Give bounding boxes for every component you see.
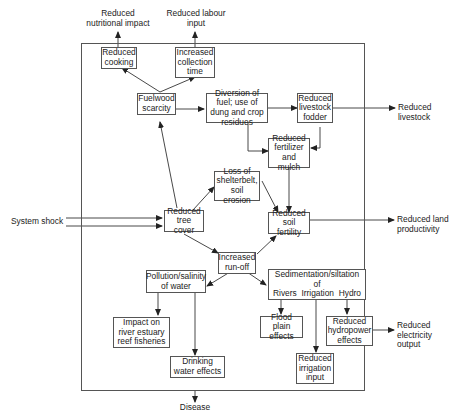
label-reduced-livestock: Reduced livestock (398, 103, 443, 122)
label-reduced-nutritional-impact: Reduced nutritional impact (83, 9, 153, 28)
node-increased-runoff: Increased run-off (218, 252, 256, 274)
node-reduced-hydropower: Reduced hydropower effects (326, 316, 373, 346)
node-increased-collection-time: Increased collection time (175, 47, 215, 78)
node-impact-fisheries: Impact on river estuary reef fisheries (113, 317, 170, 348)
sedimentation-targets: Rivers Irrigation Hydro (271, 289, 363, 299)
node-reduced-soil-fertility: Reduced soil fertility (268, 212, 310, 234)
sed-hydro: Hydro (339, 289, 361, 299)
node-diversion-of-fuel: Diversion of fuel; use of dung and crop … (206, 93, 268, 123)
sed-irrigation: Irrigation (301, 289, 334, 299)
label-disease: Disease (170, 403, 220, 413)
node-sedimentation: Sedimentation/siltation of Rivers Irriga… (268, 269, 366, 300)
label-reduced-land-productivity: Reduced land productivity (397, 215, 457, 234)
node-reduced-livestock-fodder: Reduced livestock fodder (297, 93, 333, 123)
node-reduced-irrigation-input: Reduced irrigation input (296, 353, 334, 384)
node-drinking-water-effects: Drinking water effects (170, 356, 225, 378)
label-reduced-electricity-output: Reduced electricity output (397, 321, 445, 350)
node-reduced-fertilizer-mulch: Reduced fertilizer and mulch (268, 138, 310, 168)
node-pollution-salinity: Pollution/salinity of water (146, 270, 206, 293)
node-reduced-tree-cover: Reduced tree cover (164, 210, 204, 232)
sedimentation-title: Sedimentation/siltation of (271, 270, 363, 289)
node-fuelwood-scarcity: Fuelwood scarcity (137, 93, 176, 115)
node-reduced-cooking: Reduced cooking (101, 47, 137, 69)
label-system-shock: System shock (11, 217, 71, 227)
node-flood-plain-effects: Flood plain effects (260, 316, 303, 338)
node-loss-of-shelterbelt: Loss of shelterbelt, soil erosion (214, 171, 260, 201)
sed-rivers: Rivers (273, 289, 297, 299)
label-reduced-labour-input: Reduced labour input (166, 9, 226, 28)
